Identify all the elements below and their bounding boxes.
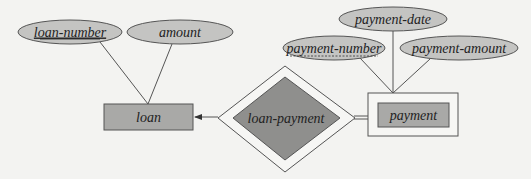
line-loan-number-loan [100,42,148,104]
entity-payment[interactable]: payment [368,93,458,136]
line-amount-loan [148,44,172,104]
line-payment-amount-payment [393,59,430,93]
attribute-payment-number[interactable]: payment-number [283,36,385,60]
attribute-amount[interactable]: amount [127,20,233,44]
payment-amount-label: payment-amount [411,41,507,56]
payment-date-label: payment-date [354,12,431,27]
attribute-payment-amount[interactable]: payment-amount [400,36,518,60]
payment-label: payment [389,108,439,123]
line-payment-number-payment [360,58,393,93]
payment-number-label: payment-number [286,41,382,56]
loan-payment-label: loan-payment [248,111,326,126]
entity-loan[interactable]: loan [104,104,193,130]
relationship-loan-payment[interactable]: loan-payment [218,66,355,172]
loan-number-label: loan-number [34,25,107,40]
attribute-loan-number[interactable]: loan-number [18,20,122,44]
attribute-payment-date[interactable]: payment-date [339,7,447,31]
amount-label: amount [159,25,202,40]
loan-label: loan [136,110,161,125]
er-diagram: loan-number amount payment-date payment-… [0,0,531,179]
